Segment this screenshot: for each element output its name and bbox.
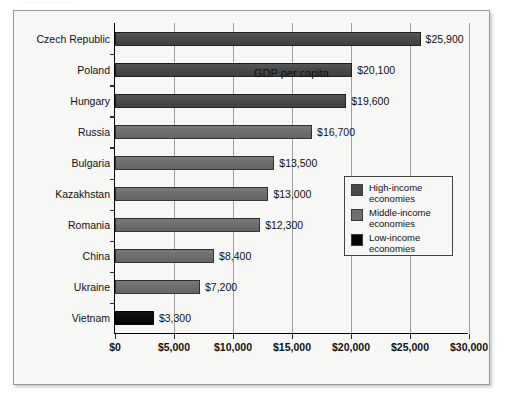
x-tick-5000 (174, 334, 175, 339)
bar-value-label: $13,000 (273, 188, 311, 200)
legend-label-middle: Middle-incomeeconomies (369, 208, 431, 229)
bar-value-label: $8,400 (219, 250, 251, 262)
category-label-kazakhstan: Kazakhstan (55, 188, 110, 200)
bar (115, 311, 154, 325)
bar-value-label: $12,300 (265, 219, 303, 231)
y-tick (110, 147, 115, 148)
y-tick (110, 272, 115, 273)
bar-value-label: $19,600 (351, 95, 389, 107)
bar-value-label: $7,200 (205, 281, 237, 293)
x-tick-30000 (469, 334, 470, 339)
bar (115, 156, 274, 170)
bar-row: $19,600 (115, 94, 468, 108)
bar (115, 94, 346, 108)
x-tick-label-20000: $20,000 (332, 341, 370, 353)
legend-item-high: High-incomeeconomies (351, 183, 447, 204)
x-tick-label-10000: $10,000 (214, 341, 252, 353)
category-label-hungary: Hungary (70, 95, 110, 107)
y-tick (110, 179, 115, 180)
legend-item-low: Low-incomeeconomies (351, 233, 447, 254)
legend-label-line1: Low-income (369, 233, 420, 244)
category-label-vietnam: Vietnam (72, 312, 110, 324)
category-label-china: China (83, 250, 110, 262)
category-label-russia: Russia (78, 126, 110, 138)
legend-label-low: Low-incomeeconomies (369, 233, 420, 254)
x-tick-label-30000: $30,000 (450, 341, 488, 353)
category-label-ukraine: Ukraine (74, 281, 110, 293)
bar-value-label: $25,900 (426, 33, 464, 45)
x-tick-label-15000: $15,000 (273, 341, 311, 353)
legend: High-incomeeconomiesMiddle-incomeeconomi… (344, 176, 453, 256)
category-axis-labels: Czech RepublicPolandHungaryRussiaBulgari… (14, 11, 110, 346)
bar-row: $13,500 (115, 156, 468, 170)
legend-label-line1: High-income (369, 183, 422, 194)
legend-label-line2: economies (369, 219, 431, 230)
bar (115, 32, 421, 46)
x-tick-0 (115, 334, 116, 339)
y-tick (110, 54, 115, 55)
bar-value-label: $16,700 (317, 126, 355, 138)
x-axis: $0$5,000$10,000$15,000$20,000$25,000$30,… (115, 334, 468, 374)
y-tick (110, 210, 115, 211)
bar-row: $16,700 (115, 125, 468, 139)
bar (115, 218, 260, 232)
x-tick-label-25000: $25,000 (391, 341, 429, 353)
legend-label-line2: economies (369, 244, 420, 255)
legend-swatch-high (351, 184, 363, 196)
category-label-czech-republic: Czech Republic (36, 33, 110, 45)
gridline-30000 (469, 23, 470, 333)
cut-off-caption-remnant: ...................... (18, 0, 218, 5)
legend-label-high: High-incomeeconomies (369, 183, 422, 204)
category-label-bulgaria: Bulgaria (71, 157, 110, 169)
y-tick (110, 116, 115, 117)
legend-item-middle: Middle-incomeeconomies (351, 208, 447, 229)
bar (115, 125, 312, 139)
x-tick-label-0: $0 (109, 341, 121, 353)
legend-swatch-low (351, 234, 363, 246)
bar (115, 249, 214, 263)
bar-value-label: $3,300 (159, 312, 191, 324)
x-tick-20000 (351, 334, 352, 339)
x-tick-25000 (410, 334, 411, 339)
x-axis-title: GDP per capita (115, 67, 468, 79)
category-label-poland: Poland (77, 64, 110, 76)
y-tick (110, 303, 115, 304)
bar-row: $7,200 (115, 280, 468, 294)
x-tick-label-5000: $5,000 (158, 341, 190, 353)
x-tick-10000 (233, 334, 234, 339)
legend-label-line1: Middle-income (369, 208, 431, 219)
x-tick-15000 (292, 334, 293, 339)
y-tick (110, 85, 115, 86)
bar-row: $25,900 (115, 32, 468, 46)
figure-frame: Czech RepublicPolandHungaryRussiaBulgari… (13, 10, 490, 385)
bar-value-label: $13,500 (279, 157, 317, 169)
bar (115, 187, 268, 201)
bar-row: $3,300 (115, 311, 468, 325)
legend-label-line2: economies (369, 194, 422, 205)
y-tick (110, 241, 115, 242)
legend-swatch-middle (351, 209, 363, 221)
bar (115, 280, 200, 294)
category-label-romania: Romania (68, 219, 110, 231)
